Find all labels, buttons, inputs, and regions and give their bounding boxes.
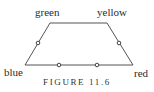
vertex-label-green: green <box>35 7 59 18</box>
edge-points <box>36 41 121 67</box>
edge-point-bottom-2 <box>95 63 99 67</box>
trapezoid-outline <box>25 23 133 65</box>
vertex-label-yellow: yellow <box>97 7 127 18</box>
edge-point-right <box>117 41 121 45</box>
trapezoid-figure: green yellow red blue FIGURE 11.6 <box>0 0 154 92</box>
edge-point-bottom-1 <box>57 63 61 67</box>
figure-caption: FIGURE 11.6 <box>0 77 154 87</box>
edge-point-left <box>36 41 40 45</box>
